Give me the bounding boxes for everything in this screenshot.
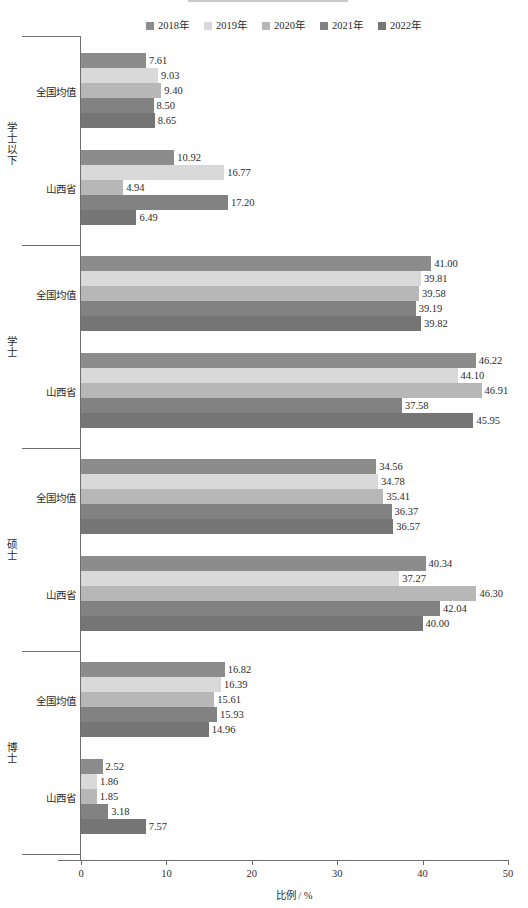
bar [81, 98, 154, 113]
bar [81, 398, 402, 413]
subgroup-label-province: 山西省 [24, 586, 76, 601]
bar [81, 519, 393, 534]
bar-value-label: 8.50 [154, 98, 175, 113]
bar [81, 722, 209, 737]
legend-item-2022年[interactable]: 2022年 [378, 21, 421, 32]
bar-value-label: 16.39 [221, 677, 248, 692]
bar-value-label: 1.86 [97, 774, 118, 789]
legend-swatch-icon [378, 22, 386, 30]
bar [81, 474, 378, 489]
bar [81, 210, 136, 225]
bar-value-label: 6.49 [136, 210, 157, 225]
cropped-top-rule [188, 0, 348, 2]
legend-label: 2022年 [390, 21, 421, 32]
legend-swatch-icon [262, 22, 270, 30]
bar-value-label: 34.78 [378, 474, 405, 489]
bar [81, 789, 97, 804]
x-axis-tick-label: 10 [161, 868, 172, 879]
bar-value-label: 39.82 [421, 316, 448, 331]
bar [81, 504, 392, 519]
legend-label: 2020年 [274, 21, 305, 32]
group-separator [22, 36, 80, 37]
bar [81, 165, 224, 180]
bar-value-label: 3.18 [108, 804, 129, 819]
bar-value-label: 45.95 [473, 413, 500, 428]
x-axis-tick-label: 50 [503, 868, 514, 879]
group-separator [22, 854, 80, 855]
subgroup-label-province: 山西省 [24, 789, 76, 804]
bar-value-label: 10.92 [174, 150, 201, 165]
bar [81, 195, 228, 210]
bar [81, 383, 482, 398]
bar-value-label: 9.03 [158, 68, 179, 83]
legend-item-2021年[interactable]: 2021年 [320, 21, 363, 32]
bar [81, 83, 161, 98]
x-axis-tick [166, 860, 167, 865]
bar-value-label: 16.77 [224, 165, 251, 180]
bar [81, 489, 383, 504]
bar [81, 759, 103, 774]
bar-value-label: 2.52 [103, 759, 124, 774]
bar-value-label: 42.04 [440, 601, 467, 616]
chart-legend: 2018年2019年2020年2021年2022年 [146, 18, 486, 34]
bar-value-label: 35.41 [383, 489, 410, 504]
bar [81, 113, 155, 128]
bar-value-label: 14.96 [209, 722, 236, 737]
subgroup-label-national: 全国均值 [24, 692, 76, 707]
bar-value-label: 46.30 [476, 586, 503, 601]
bar-value-label: 36.57 [393, 519, 420, 534]
subgroup-label-national: 全国均值 [24, 286, 76, 301]
group-label-3: 博士 [2, 742, 18, 764]
bar [81, 662, 225, 677]
bar-value-label: 46.22 [476, 353, 503, 368]
bar [81, 271, 421, 286]
bar-value-label: 40.00 [423, 616, 450, 631]
bar [81, 586, 476, 601]
bar [81, 571, 399, 586]
bar-value-label: 36.37 [392, 504, 419, 519]
subgroup-label-province: 山西省 [24, 180, 76, 195]
x-axis-tick-label: 30 [332, 868, 343, 879]
bar [81, 53, 146, 68]
legend-swatch-icon [146, 22, 154, 30]
plot-area: 比例 / % 7.619.039.408.508.65全国均值10.9216.7… [80, 36, 508, 860]
x-axis-tick [337, 860, 338, 865]
bar [81, 804, 108, 819]
bar-value-label: 7.57 [146, 819, 167, 834]
legend-item-2019年[interactable]: 2019年 [204, 21, 247, 32]
bar [81, 368, 458, 383]
bar [81, 256, 431, 271]
bar-value-label: 1.85 [97, 789, 118, 804]
x-axis-tick [508, 860, 509, 865]
group-separator [22, 448, 80, 449]
bar-value-label: 16.82 [225, 662, 252, 677]
bar [81, 692, 214, 707]
bar-value-label: 39.81 [421, 271, 448, 286]
bar [81, 774, 97, 789]
group-label-1: 学士 [2, 336, 18, 358]
bar-value-label: 40.34 [426, 556, 453, 571]
subgroup-label-province: 山西省 [24, 383, 76, 398]
bar [81, 353, 476, 368]
legend-swatch-icon [204, 22, 212, 30]
legend-item-2018年[interactable]: 2018年 [146, 21, 189, 32]
grouped-bar-chart: 2018年2019年2020年2021年2022年 比例 / % 7.619.0… [0, 0, 528, 908]
bar [81, 180, 123, 195]
x-axis-title: 比例 / % [80, 887, 508, 902]
x-axis-tick [423, 860, 424, 865]
bar-value-label: 7.61 [146, 53, 167, 68]
bar [81, 150, 174, 165]
bar-value-label: 8.65 [155, 113, 176, 128]
bar [81, 556, 426, 571]
x-axis-tick-label: 0 [78, 868, 83, 879]
legend-swatch-icon [320, 22, 328, 30]
x-axis-tick [252, 860, 253, 865]
group-label-2: 硕士 [2, 539, 18, 561]
subgroup-label-national: 全国均值 [24, 489, 76, 504]
bar-value-label: 37.58 [402, 398, 429, 413]
legend-item-2020年[interactable]: 2020年 [262, 21, 305, 32]
bar [81, 68, 158, 83]
bar [81, 413, 473, 428]
subgroup-label-national: 全国均值 [24, 83, 76, 98]
legend-label: 2019年 [216, 21, 247, 32]
